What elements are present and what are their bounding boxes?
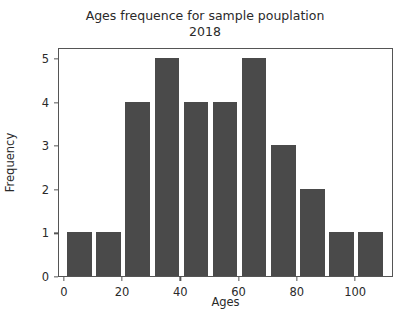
bar <box>300 189 324 276</box>
bar <box>155 58 179 276</box>
bar <box>358 232 382 276</box>
bar <box>184 102 208 276</box>
y-tick-label: 0 <box>42 270 49 284</box>
y-tick-label: 2 <box>42 183 49 197</box>
y-tick-label: 3 <box>42 139 49 153</box>
x-tick-mark <box>121 277 122 281</box>
bar <box>96 232 120 276</box>
chart-title: Ages frequence for sample pouplation 201… <box>0 8 410 40</box>
x-tick-mark <box>354 277 355 281</box>
bar-series <box>59 49 392 276</box>
bar <box>67 232 91 276</box>
x-tick-mark <box>238 277 239 281</box>
bar <box>329 232 353 276</box>
y-tick-label: 4 <box>42 96 49 110</box>
y-axis: 012345 <box>0 48 58 277</box>
bar <box>271 145 295 276</box>
bar <box>125 102 149 276</box>
x-tick-mark <box>63 277 64 281</box>
x-tick-mark <box>296 277 297 281</box>
bar <box>242 58 266 276</box>
x-tick-mark <box>180 277 181 281</box>
plot-area <box>58 48 393 277</box>
y-tick-label: 5 <box>42 52 49 66</box>
bar <box>213 102 237 276</box>
chart-figure: Ages frequence for sample pouplation 201… <box>0 0 410 317</box>
y-tick-label: 1 <box>42 226 49 240</box>
x-axis-title: Ages <box>58 295 393 309</box>
